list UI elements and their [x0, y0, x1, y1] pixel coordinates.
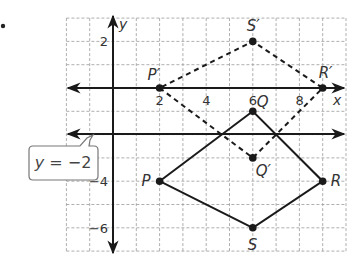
original-quadrilateral — [160, 111, 323, 228]
vertex-p — [156, 177, 164, 185]
x-axis-label: x — [332, 92, 342, 108]
x-tick-label: 4 — [202, 93, 210, 108]
vertex-label-s-prime: S′ — [247, 17, 261, 35]
vertex-q-prime — [249, 154, 257, 162]
vertex-points: PQRSP′Q′R′S′ — [142, 17, 342, 253]
vertex-label-s: S — [248, 236, 258, 254]
bullet-dot — [1, 24, 5, 28]
x-tick-label: 8 — [295, 93, 303, 108]
vertex-r — [319, 177, 327, 185]
vertex-label-r-prime: R′ — [319, 64, 333, 82]
equation-value: = −2 — [44, 153, 91, 172]
x-tick-label: 2 — [156, 93, 164, 108]
x-tick-label: 6 — [249, 93, 257, 108]
vertex-label-q: Q — [257, 93, 269, 111]
vertex-p-prime — [156, 84, 164, 92]
y-tick-label: −6 — [89, 221, 108, 236]
reflection-line-label: y = −2 — [30, 148, 96, 178]
vertex-q — [249, 108, 257, 116]
vertex-label-r: R — [331, 172, 341, 190]
vertex-s — [249, 224, 257, 232]
vertex-s-prime — [249, 38, 257, 46]
vertex-label-p-prime: P′ — [148, 66, 161, 84]
coordinate-plane-diagram: PQRSP′Q′R′S′ 24682−4−6 x y — [0, 0, 361, 264]
equation-variable: y — [35, 153, 44, 172]
vertex-label-p: P — [142, 172, 152, 190]
vertex-r-prime — [319, 84, 327, 92]
y-axis-label: y — [118, 16, 128, 32]
y-tick-label: 2 — [100, 34, 108, 49]
vertex-label-q-prime: Q′ — [256, 162, 272, 180]
